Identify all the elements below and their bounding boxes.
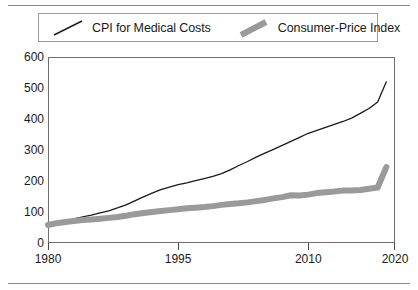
top-divider-rule bbox=[8, 5, 410, 6]
y-tick-label: 0 bbox=[37, 236, 44, 250]
y-tick-label: 200 bbox=[24, 174, 44, 188]
legend-label-cpi-medical: CPI for Medical Costs bbox=[92, 21, 211, 35]
legend-entry-cpi-medical: CPI for Medical Costs bbox=[51, 14, 211, 41]
legend-label-consumer-price-index: Consumer-Price Index bbox=[278, 21, 400, 35]
y-tick-label: 300 bbox=[24, 143, 44, 157]
x-tick-label: 2020 bbox=[382, 252, 409, 266]
legend-entry-consumer-price-index: Consumer-Price Index bbox=[237, 14, 400, 41]
x-tick-mark bbox=[178, 243, 179, 250]
x-tick-mark bbox=[394, 243, 395, 250]
thick-diagonal-line-icon bbox=[237, 18, 271, 38]
x-tick-label: 1995 bbox=[165, 252, 192, 266]
plot-area bbox=[48, 57, 395, 243]
y-tick-label: 100 bbox=[24, 205, 44, 219]
y-tick-label: 600 bbox=[24, 50, 44, 64]
data-series-layer bbox=[48, 57, 395, 243]
x-tick-mark bbox=[308, 243, 309, 250]
x-tick-label: 2010 bbox=[295, 252, 322, 266]
bottom-divider-rule bbox=[8, 283, 410, 284]
thin-diagonal-line-icon bbox=[51, 18, 85, 38]
x-tick-label: 1980 bbox=[35, 252, 62, 266]
y-tick-label: 500 bbox=[24, 81, 44, 95]
x-tick-mark bbox=[48, 243, 49, 250]
chart-legend: CPI for Medical Costs Consumer-Price Ind… bbox=[38, 13, 378, 42]
series-line-consumer-price-index bbox=[48, 167, 386, 225]
y-tick-label: 400 bbox=[24, 112, 44, 126]
chart-figure: CPI for Medical Costs Consumer-Price Ind… bbox=[0, 0, 418, 290]
